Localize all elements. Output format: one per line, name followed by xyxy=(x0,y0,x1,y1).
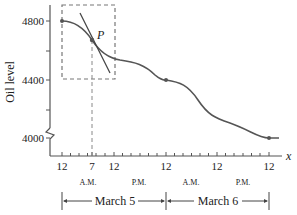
period-label: P.M. xyxy=(236,178,251,187)
x-tick: 12 xyxy=(212,160,223,172)
x-tick: 12 xyxy=(264,160,275,172)
data-point xyxy=(267,136,271,140)
x-tick: 12 xyxy=(161,160,172,172)
y-tick-4400: 4400 xyxy=(22,74,45,86)
x-tick: 12 xyxy=(109,160,120,172)
y-tick-4000: 4000 xyxy=(22,132,45,144)
x-tick: 12 xyxy=(57,160,68,172)
day-label-march-5: March 5 xyxy=(95,194,135,208)
oil-level-chart: 4800 4400 4000 Oil level x 12 7 12 12 12… xyxy=(0,0,297,215)
period-label: A.M. xyxy=(183,178,200,187)
period-label: P.M. xyxy=(132,178,147,187)
y-tick-4800: 4800 xyxy=(22,15,45,27)
period-label: A.M. xyxy=(80,178,97,187)
day-label-march-6: March 6 xyxy=(198,194,238,208)
data-point xyxy=(60,19,64,23)
x-axis-label: x xyxy=(285,149,292,163)
tangent-line xyxy=(80,13,110,73)
x-tick: 7 xyxy=(89,160,95,172)
point-p xyxy=(90,38,94,42)
axis-break-icon xyxy=(46,128,54,156)
data-point xyxy=(164,78,168,82)
y-axis-label: Oil level xyxy=(3,61,17,103)
point-p-label: P xyxy=(96,28,105,42)
